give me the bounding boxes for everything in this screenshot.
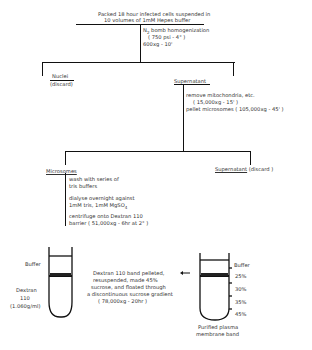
left-tube-buffer: Buffer	[25, 261, 41, 267]
transfer-line-3: sucrose, and floated through	[91, 284, 166, 290]
right-tube-band	[201, 273, 228, 276]
transfer-line-4: a discontinuous sucrose gradient	[87, 291, 173, 297]
left-tube-medium-3: (1.060g/ml)	[10, 303, 40, 309]
right-tube-layer-buffer: Buffer	[234, 262, 250, 268]
transfer-line-2: resuspended, made 45%	[93, 277, 158, 283]
right-tube-layer-25: 25%	[235, 273, 247, 279]
left-tube-band	[50, 273, 71, 276]
tube-drawings	[0, 0, 312, 350]
right-tube-layer-30: 30%	[235, 286, 247, 292]
right-tube-icon	[200, 253, 232, 320]
right-tube-layer-35: 35%	[235, 299, 247, 305]
left-tube-icon	[49, 247, 72, 317]
transfer-line-1: Dextran 110 band pelleted,	[93, 270, 164, 276]
left-tube-medium-1: Dextran	[16, 287, 37, 293]
right-tube-layer-45: 45%	[235, 311, 247, 317]
transfer-line-5: ( 78,000xg - 20hr )	[98, 298, 147, 304]
left-tube-medium-2: 110	[20, 295, 30, 301]
result-line-2: membrane band	[196, 331, 239, 337]
result-line-1: Purified plasma	[198, 324, 238, 330]
transfer-arrow-icon	[180, 271, 190, 275]
